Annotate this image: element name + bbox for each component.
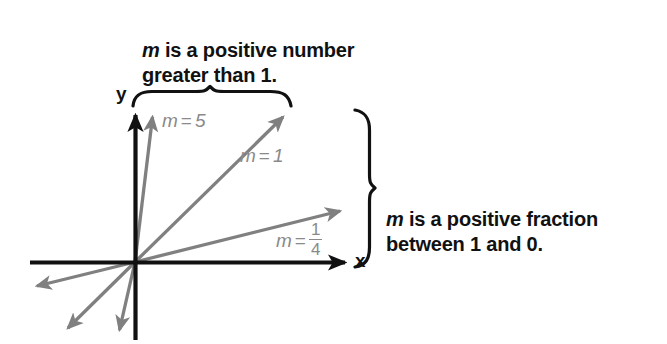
y-axis-label: y <box>116 83 127 105</box>
fraction: 14 <box>309 221 322 258</box>
fraction-denominator: 4 <box>309 241 322 258</box>
callout-variable: m <box>386 208 404 230</box>
callout-text: is a positive fraction between 1 and 0. <box>386 208 598 254</box>
brace-right-vertical <box>355 110 375 267</box>
slope-variable: m <box>240 145 256 166</box>
brace-top-horizontal <box>133 87 291 107</box>
fraction-numerator: 1 <box>309 221 322 238</box>
slope-value: 5 <box>195 110 206 131</box>
equals-sign: = <box>178 110 195 131</box>
x-axis-label: x <box>355 250 366 272</box>
equals-sign: = <box>256 145 273 166</box>
slope-label-m-equals-5: m=5 <box>162 110 206 132</box>
callout-steep-slopes: m is a positive number greater than 1. <box>142 14 442 87</box>
callout-variable: m <box>142 39 160 61</box>
slope-variable: m <box>276 230 292 251</box>
callout-shallow-slopes: m is a positive fraction between 1 and 0… <box>386 183 666 256</box>
callout-text: is a positive number greater than 1. <box>142 39 354 85</box>
equals-sign: = <box>292 230 309 251</box>
slope-variable: m <box>162 110 178 131</box>
slope-value: 1 <box>273 145 284 166</box>
slope-label-m-equals-1: m=1 <box>240 145 284 167</box>
slope-label-m-equals-one-quarter: m=14 <box>276 222 322 259</box>
